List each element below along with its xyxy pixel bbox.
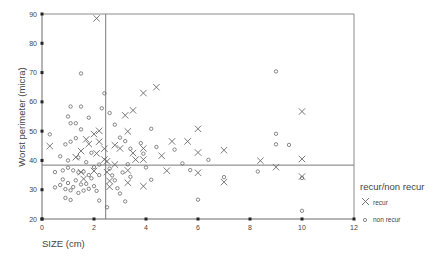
x-tick-label: 8 (248, 224, 252, 231)
non-recur-point (222, 175, 225, 178)
x-tick-label: 0 (40, 224, 44, 231)
non-recur-point (77, 191, 80, 194)
x-tick-label: 12 (350, 224, 358, 231)
recur-point (130, 150, 136, 156)
non-recur-point (69, 140, 72, 143)
non-recur-point (113, 123, 116, 126)
plot-frame (42, 14, 354, 219)
non-recur-point (69, 122, 72, 125)
recur-point (140, 145, 146, 151)
non-recur-point (61, 178, 64, 181)
non-recur-point (90, 151, 93, 154)
recur-point (169, 138, 175, 144)
recur-point (158, 153, 164, 159)
legend-label-recur: recur (373, 199, 389, 206)
non-recur-point (150, 127, 153, 130)
recur-point (125, 167, 131, 173)
reference-lines (42, 14, 354, 219)
non-recur-point (79, 72, 82, 75)
recur-point (122, 112, 128, 118)
scatter-chart: 2030405060708090 024681012 SIZE (cm) Wor… (0, 0, 435, 270)
non-recur-point (155, 145, 158, 148)
non-recur-point (66, 166, 69, 169)
recur-point (125, 179, 131, 185)
non-recur-point (124, 200, 127, 203)
non-recur-point (87, 173, 90, 176)
non-recur-point (129, 175, 132, 178)
non-recur-point (79, 183, 82, 186)
non-recur-point (74, 179, 77, 182)
recur-point (221, 147, 227, 153)
y-tick-mark (41, 159, 44, 162)
non-recur-point (87, 116, 90, 119)
non-recur-point (196, 198, 199, 201)
y-tick-label: 70 (29, 69, 37, 76)
x-tick-mark (41, 218, 44, 221)
y-tick-label: 20 (29, 216, 37, 223)
non-recur-point (173, 148, 176, 151)
recur-point (96, 138, 102, 144)
legend-label-non-recur: non recur (373, 216, 401, 223)
recur-point (140, 156, 146, 162)
recur-point (299, 108, 305, 114)
recur-point (104, 158, 110, 164)
non-recur-point (72, 169, 75, 172)
non-recur-point (100, 107, 103, 110)
y-tick-mark (41, 13, 44, 16)
x-tick-label: 4 (144, 224, 148, 231)
recur-point (78, 148, 84, 154)
y-tick-label: 50 (29, 128, 37, 135)
legend-title: recur/non recur (360, 181, 424, 192)
recur-point (125, 128, 131, 134)
y-tick-label: 30 (29, 186, 37, 193)
non-recur-point (124, 139, 127, 142)
non-recur-point (72, 185, 75, 188)
recur-point (195, 126, 201, 132)
non-recur-point (181, 162, 184, 165)
recur-point (184, 138, 190, 144)
non-recur-point (82, 170, 85, 173)
legend: recur/non recur recur non recur (360, 181, 424, 223)
non-recur-point (61, 169, 64, 172)
non-recur-point (92, 165, 95, 168)
recur-point (132, 156, 138, 162)
x-tick-mark (249, 218, 252, 221)
non-recur-point (98, 163, 101, 166)
non-recur-point (87, 187, 90, 190)
non-recur-point (69, 189, 72, 192)
non-recur-point (69, 198, 72, 201)
y-tick-label: 60 (29, 98, 37, 105)
non-recur-point (144, 166, 147, 169)
recur-point (140, 183, 146, 189)
non-recur-point (64, 196, 67, 199)
non-recur-point (79, 105, 82, 108)
non-recur-point (108, 111, 111, 114)
non-recur-point (189, 168, 192, 171)
non-recur-point (98, 173, 101, 176)
non-recur-point (53, 170, 56, 173)
non-recur-point (74, 122, 77, 125)
x-tick-mark (353, 218, 356, 221)
x-tick-label: 10 (298, 224, 306, 231)
recur-point (140, 90, 146, 96)
x-axis: 024681012 (40, 218, 358, 232)
non-recur-point (118, 192, 121, 195)
circle-marker-icon (363, 218, 366, 221)
non-recur-point (82, 189, 85, 192)
y-tick-mark (41, 188, 44, 191)
non-recur-point (59, 155, 62, 158)
x-tick-mark (301, 218, 304, 221)
x-tick-mark (93, 218, 96, 221)
non-recur-point (90, 177, 93, 180)
non-recur-point (207, 158, 210, 161)
recur-point (106, 184, 112, 190)
y-tick-label: 90 (29, 11, 37, 18)
y-tick-mark (41, 42, 44, 45)
non-recur-point (95, 189, 98, 192)
recur-point (93, 150, 99, 156)
recur-point (195, 149, 201, 155)
x-marker-icon (362, 198, 369, 205)
recur-point (101, 146, 107, 152)
non-recur-point (66, 115, 69, 118)
non-recur-point (113, 179, 116, 182)
